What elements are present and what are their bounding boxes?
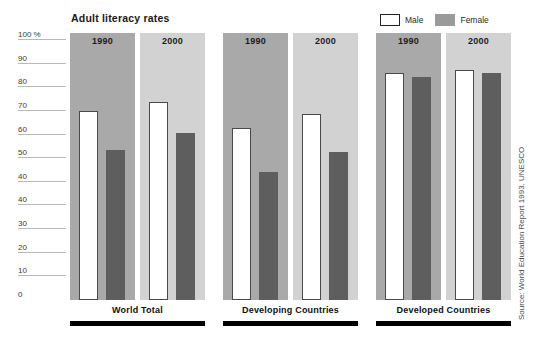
y-axis-gridline [18, 181, 66, 182]
bar-male [149, 102, 168, 300]
legend-label-female: Female [460, 15, 488, 25]
group-label: World Total [70, 305, 205, 315]
bar-male [455, 70, 474, 300]
chart-group: 19902000Developed Countries [376, 33, 511, 304]
y-axis-tick-label: 60 [18, 125, 27, 134]
year-panel: 1990 [70, 33, 135, 300]
bar-female [106, 150, 125, 300]
panel-year-label: 2000 [446, 36, 511, 46]
y-axis-tick-label: 30 [18, 219, 27, 228]
bar-male [232, 128, 251, 300]
group-baseline-rule [70, 321, 205, 326]
y-axis-tick-label: 10 [18, 266, 27, 275]
panel-year-label: 2000 [140, 36, 205, 46]
y-axis-gridline [18, 86, 66, 87]
y-axis-gridline [18, 157, 66, 158]
source-note: Source: World Education Report 1993. UNE… [517, 100, 526, 320]
y-axis-gridline [18, 252, 66, 253]
legend-entry-male: Male [380, 14, 423, 26]
chart-figure: Adult literacy rates Male Female 100 %90… [0, 0, 539, 344]
y-axis-tick-label: 80 [18, 77, 27, 86]
group-baseline-rule [223, 321, 358, 326]
year-panel: 2000 [293, 33, 358, 300]
y-axis-gridline [18, 63, 66, 64]
group-baseline-rule [376, 321, 511, 326]
legend-label-male: Male [405, 15, 423, 25]
bar-female [329, 152, 348, 300]
y-axis-gridline [18, 39, 66, 40]
plot-area: 19902000World Total19902000Developing Co… [70, 33, 504, 304]
y-axis-gridline [18, 275, 66, 276]
y-axis-gridline [18, 110, 66, 111]
panel-year-label: 1990 [223, 36, 288, 46]
bar-male [385, 73, 404, 300]
y-axis-tick-label: 40 [18, 195, 27, 204]
bar-male [79, 111, 98, 300]
y-axis-tick-label: 40 [18, 172, 27, 181]
bar-female [412, 77, 431, 300]
y-axis-tick-label: 100 % [18, 30, 41, 39]
bar-male [302, 114, 321, 300]
group-label: Developing Countries [223, 305, 358, 315]
chart-title: Adult literacy rates [71, 12, 170, 24]
legend-swatch-female-icon [435, 14, 455, 26]
year-panel: 1990 [223, 33, 288, 300]
chart-group: 19902000Developing Countries [223, 33, 358, 304]
year-panel: 2000 [446, 33, 511, 300]
group-label: Developed Countries [376, 305, 511, 315]
y-axis-tick-label: 50 [18, 148, 27, 157]
y-axis: 100 %908070605040403020100 [18, 40, 68, 300]
panel-year-label: 1990 [70, 36, 135, 46]
y-axis-tick-label: 90 [18, 54, 27, 63]
bar-female [259, 172, 278, 300]
panel-year-label: 2000 [293, 36, 358, 46]
bar-female [176, 133, 195, 300]
year-panel: 2000 [140, 33, 205, 300]
bar-female [482, 73, 501, 300]
y-axis-tick-label: 20 [18, 243, 27, 252]
y-axis-tick-label: 0 [18, 290, 22, 299]
chart-group: 19902000World Total [70, 33, 205, 304]
year-panel: 1990 [376, 33, 441, 300]
legend-swatch-male-icon [380, 14, 400, 26]
y-axis-gridline [18, 134, 66, 135]
panel-year-label: 1990 [376, 36, 441, 46]
chart-legend: Male Female [380, 14, 489, 26]
y-axis-tick-label: 70 [18, 101, 27, 110]
y-axis-gridline [18, 228, 66, 229]
y-axis-gridline [18, 204, 66, 205]
legend-entry-female: Female [435, 14, 488, 26]
